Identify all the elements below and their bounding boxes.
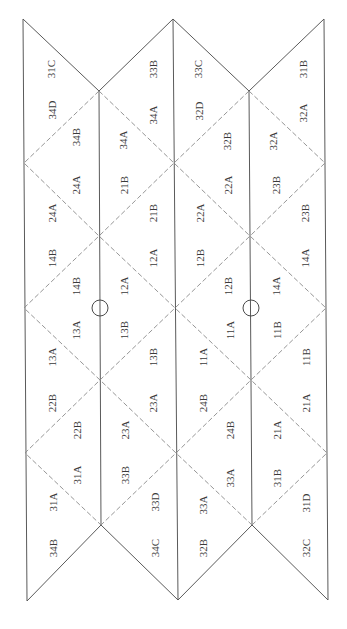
region-label: 34A [147, 105, 159, 124]
region-label: 11A [224, 321, 236, 340]
region-label: 13B [118, 321, 130, 339]
region-labels: 31C33B33C31B34D34A32D32A34B34A32B32A24A2… [45, 60, 312, 557]
region-label: 21B [118, 176, 130, 194]
region-label: 34B [70, 128, 82, 146]
region-label: 12A [118, 276, 130, 295]
region-label: 21A [271, 420, 283, 439]
region-label: 33C [192, 60, 204, 78]
region-label: 22A [222, 175, 234, 194]
region-label: 32B [221, 132, 233, 150]
region-label: 14B [46, 249, 58, 267]
region-label: 14A [270, 276, 282, 295]
region-label: 32A [297, 103, 309, 122]
region-label: 32B [197, 539, 209, 557]
dashed-right-inner [174, 91, 252, 525]
region-label: 22B [71, 421, 83, 439]
region-label: 31A [47, 492, 59, 511]
region-label: 31C [45, 60, 57, 78]
region-label: 24A [46, 203, 58, 222]
region-label: 12A [147, 248, 159, 267]
region-label: 14B [70, 277, 82, 295]
region-label: 24A [70, 175, 82, 194]
region-label: 31D [300, 493, 312, 512]
region-label: 13A [70, 320, 82, 339]
region-label: 11B [300, 348, 312, 366]
region-label: 33B [147, 60, 159, 78]
region-label: 33B [119, 466, 131, 484]
region-label: 33D [149, 492, 161, 511]
region-label: 31B [297, 60, 309, 78]
region-label: 13B [147, 348, 159, 366]
fold-pattern-diagram: 31C33B33C31B34D34A32D32A34B34A32B32A24A2… [0, 0, 347, 629]
region-label: 21A [300, 393, 312, 412]
region-label: 24B [224, 421, 236, 439]
region-label: 32A [267, 131, 279, 150]
region-label: 24B [197, 394, 209, 412]
region-label: 23A [119, 420, 131, 439]
region-label: 34D [46, 100, 58, 119]
region-label: 31A [71, 465, 83, 484]
region-label: 14A [299, 248, 311, 267]
right-mid-vertical [249, 91, 252, 525]
region-label: 13A [46, 347, 58, 366]
region-label: 23A [147, 393, 159, 412]
region-label: 21B [147, 204, 159, 222]
region-label: 23B [299, 204, 311, 222]
region-label: 33A [224, 468, 236, 487]
region-label: 31B [271, 469, 283, 487]
region-label: 33A [197, 495, 209, 514]
region-label: 34A [117, 130, 129, 149]
solid-lines [23, 19, 328, 601]
left-mid-vertical [99, 91, 101, 525]
region-label: 11A [197, 348, 209, 367]
region-label: 34B [47, 539, 59, 557]
region-label: 32D [193, 101, 205, 120]
dashed-right-outer [249, 91, 327, 525]
region-label: 23B [270, 176, 282, 194]
region-label: 32C [300, 539, 312, 557]
dashed-left-outer [24, 91, 101, 525]
dashed-left-inner [99, 91, 176, 525]
region-label: 12B [222, 277, 234, 295]
region-label: 22B [46, 394, 58, 412]
region-label: 34C [149, 539, 161, 557]
region-label: 22A [194, 203, 206, 222]
region-label: 11B [271, 321, 283, 339]
region-label: 12B [194, 249, 206, 267]
